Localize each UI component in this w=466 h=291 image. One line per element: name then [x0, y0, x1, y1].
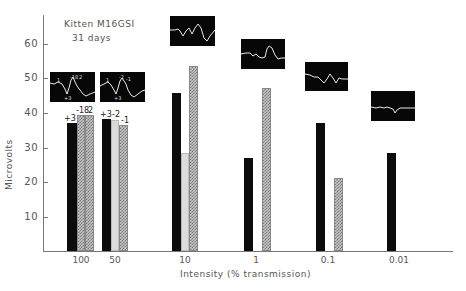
bar-50-hatch — [119, 125, 128, 251]
bar-0.1-black — [316, 123, 325, 251]
waveform-trace-icon: 1 -2 -1 +3 — [100, 72, 145, 102]
waveform-inset-1 — [241, 39, 285, 69]
x-tick-label: 100 — [66, 255, 96, 265]
bar-label: -1 — [121, 116, 129, 125]
waveform-inset-0.1 — [305, 62, 348, 91]
y-tick — [43, 113, 48, 114]
x-axis-title: Intensity (% transmission) — [180, 269, 311, 279]
y-tick-label: 30 — [10, 142, 38, 153]
waveform-inset-10 — [170, 16, 215, 46]
waveform-inset-100: 1 -18 2 +3 — [50, 72, 95, 102]
x-tick-label: 50 — [100, 255, 130, 265]
bar-10-hatch — [189, 66, 198, 251]
y-tick — [43, 217, 48, 218]
waveform-trace-icon: 1 -18 2 +3 — [50, 72, 95, 102]
y-tick-label: 40 — [10, 107, 38, 118]
waveform-inset-50: 1 -2 -1 +3 — [100, 72, 145, 102]
bar-0.1-hatch — [334, 178, 343, 251]
svg-text:+3: +3 — [114, 95, 121, 101]
y-tick-label: 10 — [10, 211, 38, 222]
svg-text:-18: -18 — [70, 74, 78, 80]
chart-subtitle: 31 days — [72, 33, 111, 43]
bar-label: 2 — [88, 106, 93, 115]
bar-50-black — [102, 119, 111, 251]
waveform-trace-icon — [241, 39, 285, 69]
bar-10-light — [181, 153, 189, 251]
y-tick-label: 60 — [10, 38, 38, 49]
y-tick — [43, 78, 48, 79]
y-axis-title: Microvolts — [4, 139, 14, 190]
x-tick-label: 10 — [170, 255, 200, 265]
svg-text:-2: -2 — [119, 74, 124, 80]
x-axis — [43, 251, 453, 252]
bar-label: +3 — [64, 114, 76, 123]
bar-1-black — [244, 158, 253, 251]
x-tick-label: 0.1 — [313, 255, 343, 265]
y-tick-label: 50 — [10, 72, 38, 83]
waveform-trace-icon — [371, 91, 415, 121]
waveform-trace-icon — [170, 16, 215, 46]
svg-text:1: 1 — [57, 77, 60, 83]
svg-text:1: 1 — [106, 77, 109, 83]
bar-1-hatch — [262, 88, 271, 251]
bar-label: +3 — [100, 110, 112, 119]
bar-100-black — [67, 123, 77, 251]
bar-label: -2 — [112, 110, 120, 119]
y-tick — [43, 44, 48, 45]
x-tick-label: 1 — [241, 255, 271, 265]
svg-text:-1: -1 — [126, 76, 131, 82]
waveform-trace-icon — [305, 62, 348, 91]
x-tick-label: 0.01 — [384, 255, 414, 265]
bar-10-black — [172, 93, 181, 251]
bar-0.01-black — [387, 153, 396, 251]
svg-text:2: 2 — [79, 74, 82, 80]
svg-text:+3: +3 — [64, 95, 71, 101]
bar-100-hatch-a — [77, 115, 85, 251]
chart-title: Kitten M16GSI — [64, 19, 135, 29]
y-tick — [43, 148, 48, 149]
bar-50-light — [111, 120, 119, 251]
y-tick-label: 20 — [10, 176, 38, 187]
bar-100-hatch-b — [85, 115, 94, 251]
waveform-inset-0.01 — [371, 91, 415, 121]
y-tick — [43, 182, 48, 183]
